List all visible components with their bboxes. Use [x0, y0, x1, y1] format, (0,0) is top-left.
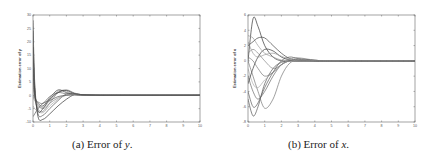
- y-tick-label: 5: [29, 80, 31, 84]
- series-line: [33, 42, 200, 112]
- y-tick-label: 30: [27, 13, 31, 17]
- y-tick-label: -4: [243, 90, 246, 94]
- x-tick-label: 9: [182, 124, 184, 128]
- caption-b-suffix: .: [346, 138, 349, 150]
- y-axis-label: Estimation error of y: [17, 48, 22, 88]
- caption-a: (a) Error of y.: [72, 138, 132, 150]
- x-tick-label: 1: [49, 124, 51, 128]
- x-tick-label: 7: [149, 124, 151, 128]
- caption-a-prefix: (a) Error of: [72, 138, 125, 150]
- chart-error-of-y: 012345678910-10-5051015202530Estimation …: [17, 13, 202, 128]
- y-tick-label: -10: [26, 120, 31, 124]
- caption-b: (b) Error of x.: [288, 138, 349, 150]
- y-tick-label: 15: [27, 53, 31, 57]
- y-tick-label: 10: [27, 67, 31, 71]
- chart-error-of-x: 012345678910-8-6-4-20246Estimation error…: [232, 13, 417, 128]
- y-tick-label: 4: [244, 29, 246, 33]
- series-line: [248, 49, 415, 68]
- y-tick-label: 6: [244, 13, 246, 17]
- series-line: [248, 42, 415, 61]
- series-line: [248, 61, 415, 109]
- series-line: [248, 61, 415, 88]
- x-tick-label: 9: [397, 124, 399, 128]
- x-tick-label: 10: [198, 124, 202, 128]
- y-axis-label: Estimation error of x: [232, 48, 237, 88]
- x-tick-label: 5: [116, 124, 118, 128]
- series-line: [33, 31, 200, 117]
- y-tick-label: 0: [244, 59, 246, 63]
- x-tick-label: 4: [314, 124, 316, 128]
- x-tick-label: 2: [65, 124, 67, 128]
- x-tick-label: 1: [264, 124, 266, 128]
- y-tick-label: -8: [243, 120, 246, 124]
- caption-a-suffix: .: [130, 138, 133, 150]
- x-tick-label: 3: [297, 124, 299, 128]
- series-line: [33, 95, 200, 113]
- x-tick-label: 0: [247, 124, 249, 128]
- y-tick-label: 25: [27, 27, 31, 31]
- x-tick-label: 4: [99, 124, 101, 128]
- series-line: [33, 47, 200, 112]
- y-tick-label: -2: [243, 74, 246, 78]
- x-tick-label: 0: [32, 124, 34, 128]
- y-tick-label: -5: [28, 107, 31, 111]
- x-tick-label: 3: [82, 124, 84, 128]
- y-tick-label: -6: [243, 105, 246, 109]
- series-group: [248, 17, 415, 116]
- y-tick-label: 0: [29, 94, 31, 98]
- series-line: [248, 36, 415, 61]
- x-tick-label: 10: [413, 124, 417, 128]
- x-tick-label: 5: [331, 124, 333, 128]
- x-tick-label: 2: [280, 124, 282, 128]
- series-line: [33, 20, 200, 120]
- x-tick-label: 7: [364, 124, 366, 128]
- series-line: [248, 49, 415, 84]
- x-tick-label: 6: [347, 124, 349, 128]
- figure-canvas: 012345678910-10-5051015202530Estimation …: [0, 0, 434, 160]
- series-group: [33, 20, 200, 120]
- x-tick-label: 8: [166, 124, 168, 128]
- x-tick-label: 6: [132, 124, 134, 128]
- caption-b-prefix: (b) Error of: [288, 138, 341, 150]
- series-line: [248, 59, 415, 99]
- y-tick-label: 2: [244, 44, 246, 48]
- series-line: [248, 17, 415, 61]
- y-tick-label: 20: [27, 40, 31, 44]
- series-line: [33, 55, 200, 108]
- series-line: [248, 61, 415, 116]
- series-line: [248, 57, 415, 76]
- x-tick-label: 8: [381, 124, 383, 128]
